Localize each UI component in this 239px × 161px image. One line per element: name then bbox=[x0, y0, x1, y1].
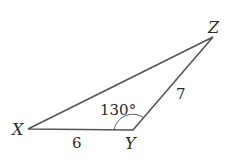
triangle-svg: Z X Y 6 7 130° bbox=[0, 0, 239, 161]
angle-label-y: 130° bbox=[100, 101, 136, 119]
vertex-label-z: Z bbox=[207, 18, 220, 37]
side-label-xy: 6 bbox=[72, 134, 82, 152]
side-label-yz: 7 bbox=[176, 85, 186, 103]
triangle-diagram: Z X Y 6 7 130° bbox=[0, 0, 239, 161]
vertex-label-y: Y bbox=[125, 134, 137, 153]
vertex-label-x: X bbox=[10, 120, 24, 139]
